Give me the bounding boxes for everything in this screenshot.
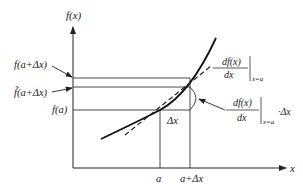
derivative-denominator: dx <box>224 69 234 80</box>
derivative-eval-at: x=a <box>251 75 264 83</box>
increment-annotation: df(x) dx x=a ·Δx <box>226 97 291 126</box>
pointer-f-tilde-a-plus-dx <box>52 88 72 92</box>
function-curve <box>101 38 216 139</box>
label-a: a <box>156 173 161 184</box>
label-delta-x: Δx <box>166 115 178 126</box>
derivative-annotation: df(x) dx x=a <box>213 56 264 83</box>
increment-arc <box>190 87 196 110</box>
y-axis-label: f(x) <box>66 9 82 22</box>
diagram-canvas: f(x) x f(a+Δx) f̃(a+Δx) f(a) a a+Δx Δx d… <box>0 0 303 191</box>
increment-denominator: dx <box>237 112 247 123</box>
increment-eval-at: x=a <box>262 118 275 126</box>
increment-suffix: ·Δx <box>278 106 291 117</box>
label-f-a-plus-dx: f(a+Δx) <box>14 59 48 71</box>
label-f-tilde-a-plus-dx: f̃(a+Δx) <box>14 86 48 99</box>
pointer-f-a-plus-dx <box>52 66 72 77</box>
label-f-a: f(a) <box>52 104 68 116</box>
x-axis-label: x <box>289 162 295 174</box>
label-a-plus-dx: a+Δx <box>180 173 203 184</box>
increment-numerator: df(x) <box>233 97 253 109</box>
pointer-increment <box>199 99 225 110</box>
derivative-numerator: df(x) <box>222 56 242 68</box>
